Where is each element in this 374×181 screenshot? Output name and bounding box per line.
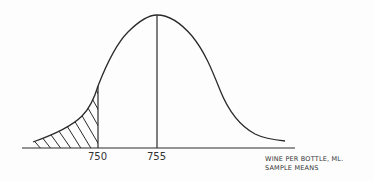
- x-axis-sublabel: SAMPLE MEANS: [265, 164, 343, 173]
- tick-label-755: 755: [147, 151, 166, 162]
- tick-label-750: 750: [88, 151, 107, 162]
- chart-canvas: 750 755 WINE PER BOTTLE, ML. SAMPLE MEAN…: [0, 0, 374, 181]
- normal-curve: [33, 15, 285, 142]
- x-axis-caption: WINE PER BOTTLE, ML. SAMPLE MEANS: [265, 155, 343, 173]
- normal-curve-plot: [0, 0, 374, 181]
- x-axis-label: WINE PER BOTTLE, ML.: [265, 155, 343, 164]
